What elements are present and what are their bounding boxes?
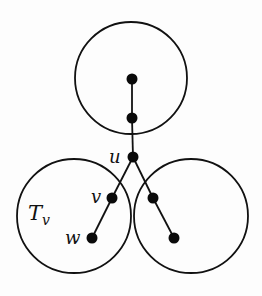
node-w <box>87 233 98 244</box>
label-subtree-main: T <box>28 201 42 225</box>
edge-top-child-u <box>132 118 133 157</box>
node-top-root <box>127 74 138 85</box>
right-subtree-circle <box>134 159 248 273</box>
node-u <box>128 152 139 163</box>
label-v: v <box>91 188 101 206</box>
tree-diagram: u v w Tv <box>0 0 262 296</box>
diagram-svg <box>0 0 262 296</box>
label-w: w <box>65 229 80 247</box>
label-u: u <box>109 148 121 166</box>
label-subtree-tv: Tv <box>28 203 50 227</box>
node-v <box>107 193 118 204</box>
node-top-child <box>127 113 138 124</box>
node-right-a <box>148 193 159 204</box>
node-right-b <box>169 233 180 244</box>
label-subtree-sub: v <box>42 212 50 228</box>
edge-right-a-right-b <box>153 198 174 238</box>
